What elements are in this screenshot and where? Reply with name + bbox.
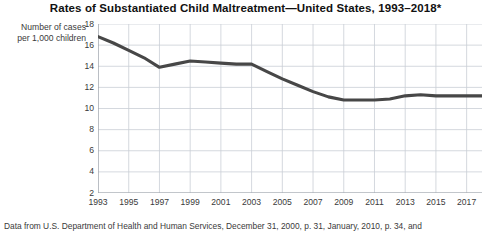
plot-area — [98, 24, 482, 193]
y-axis-tick-label: 14 — [72, 62, 94, 71]
y-axis-tick-label: 6 — [72, 146, 94, 155]
y-axis-tick-label: 18 — [72, 20, 94, 29]
chart-container: Rates of Substantiated Child Maltreatmen… — [0, 0, 491, 238]
y-axis-tick-label: 16 — [72, 41, 94, 50]
gridlines — [98, 24, 482, 193]
y-axis-tick-label: 10 — [72, 104, 94, 113]
x-axis-tick-label: 2017 — [447, 198, 487, 207]
chart-title: Rates of Substantiated Child Maltreatmen… — [0, 2, 491, 14]
data-line-substantiated-rate — [98, 37, 482, 100]
y-axis-tick-label: 12 — [72, 83, 94, 92]
y-axis-tick-label: 4 — [72, 167, 94, 176]
source-footnote: Data from U.S. Department of Health and … — [4, 221, 422, 231]
line-chart-svg — [98, 24, 482, 193]
y-axis-tick-label: 8 — [72, 125, 94, 134]
